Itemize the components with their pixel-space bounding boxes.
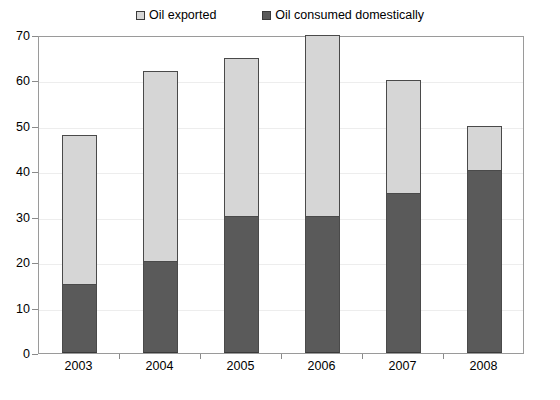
x-axis-tick-label: 2008: [470, 360, 498, 373]
bar-segment-oil-exported: [224, 58, 258, 217]
bar-group-2003: [62, 135, 96, 353]
legend-label-oil-consumed-domestically: Oil consumed domestically: [275, 9, 424, 22]
legend-item-oil-consumed-domestically: Oil consumed domestically: [262, 9, 424, 22]
x-axis-tick-mark: [119, 354, 120, 359]
stacked-bar-chart: Oil exported Oil consumed domestically 0…: [0, 0, 560, 400]
x-axis-tick-mark: [362, 354, 363, 359]
y-axis-tick-mark: [32, 354, 38, 355]
bar-group-2004: [143, 71, 177, 353]
x-axis-tick-mark: [443, 354, 444, 359]
bar-group-2007: [386, 80, 420, 353]
bar-segment-oil-consumed-domestically: [224, 217, 258, 353]
bar-segment-oil-exported: [143, 71, 177, 262]
bar-group-2005: [224, 58, 258, 353]
bars-layer: [39, 37, 523, 353]
legend-label-oil-exported: Oil exported: [149, 9, 216, 22]
bar-segment-oil-consumed-domestically: [143, 262, 177, 353]
x-axis-tick-label: 2007: [389, 360, 417, 373]
x-axis-tick-label: 2004: [146, 360, 174, 373]
x-axis-tick-label: 2005: [227, 360, 255, 373]
bar-group-2008: [467, 126, 501, 353]
x-axis-labels: 200320042005200620072008: [38, 360, 524, 380]
bar-segment-oil-exported: [467, 126, 501, 171]
bar-segment-oil-exported: [305, 35, 339, 217]
legend-swatch-domestic-icon: [262, 11, 271, 20]
x-axis-tick-mark: [281, 354, 282, 359]
legend-swatch-exported-icon: [136, 11, 145, 20]
plot-area: [38, 36, 524, 354]
bar-segment-oil-exported: [62, 135, 96, 285]
y-axis-ticks: [0, 36, 38, 354]
bar-segment-oil-consumed-domestically: [467, 171, 501, 353]
chart-legend: Oil exported Oil consumed domestically: [0, 4, 560, 26]
bar-segment-oil-exported: [386, 80, 420, 194]
bar-segment-oil-consumed-domestically: [386, 194, 420, 353]
bar-segment-oil-consumed-domestically: [62, 285, 96, 353]
legend-item-oil-exported: Oil exported: [136, 9, 216, 22]
bar-segment-oil-consumed-domestically: [305, 217, 339, 353]
x-axis-tick-label: 2006: [308, 360, 336, 373]
x-axis-tick-label: 2003: [65, 360, 93, 373]
x-axis-tick-mark: [200, 354, 201, 359]
bar-group-2006: [305, 35, 339, 353]
